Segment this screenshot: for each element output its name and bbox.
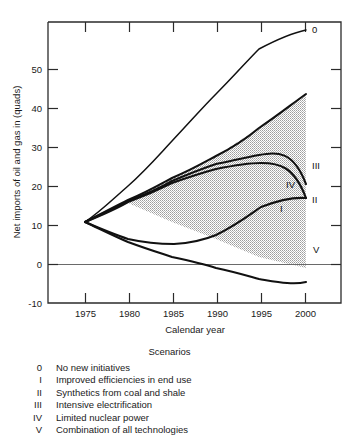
legend-key-I: I: [0, 374, 56, 386]
curve-label-IV: IV: [286, 179, 296, 190]
legend-title: Scenarios: [0, 346, 359, 357]
y-axis-ticks-left: [48, 70, 58, 265]
y-tick-label-20: 20: [31, 181, 42, 192]
curve-label-II: II: [312, 194, 317, 205]
legend-key-II: II: [0, 387, 56, 399]
curve-label-0: 0: [312, 24, 317, 35]
curve-label-V: V: [313, 244, 320, 255]
x-tick-label-1975: 1975: [75, 308, 96, 319]
y-tick-label-10: 10: [31, 220, 42, 231]
legend-key-V: V: [0, 424, 56, 436]
legend-desc-IV: Limited nuclear power: [56, 412, 359, 424]
legend-list: 0 No new initiatives I Improved efficien…: [0, 362, 359, 436]
x-axis-ticks-bottom: [86, 293, 306, 303]
x-tick-label-1980: 1980: [119, 308, 140, 319]
x-axis-ticks-top: [86, 22, 306, 32]
legend-desc-0: No new initiatives: [56, 362, 359, 374]
curve-label-I: I: [280, 203, 283, 214]
x-tick-label-2000: 2000: [295, 308, 316, 319]
legend-item-I: I Improved efficiencies in end use: [0, 374, 359, 386]
figure: 50 40 30 20 10 0 -10 1975 1980 1985 1990…: [0, 0, 359, 444]
x-axis-title: Calendar year: [165, 324, 225, 335]
legend-item-V: V Combination of all technologies: [0, 424, 359, 436]
legend-desc-V: Combination of all technologies: [56, 424, 359, 436]
x-tick-label-1995: 1995: [251, 308, 272, 319]
y-tick-label-40: 40: [31, 103, 42, 114]
legend-item-0: 0 No new initiatives: [0, 362, 359, 374]
scenario-legend: Scenarios 0 No new initiatives I Improve…: [0, 340, 359, 444]
legend-key-IV: IV: [0, 412, 56, 424]
legend-desc-III: Intensive electrification: [56, 399, 359, 411]
legend-item-III: III Intensive electrification: [0, 399, 359, 411]
legend-key-0: 0: [0, 362, 56, 374]
legend-desc-I: Improved efficiencies in end use: [56, 374, 359, 386]
chart-plot-area: 50 40 30 20 10 0 -10 1975 1980 1985 1990…: [0, 0, 359, 340]
legend-key-III: III: [0, 399, 56, 411]
y-tick-label-30: 30: [31, 142, 42, 153]
chart-svg: 50 40 30 20 10 0 -10 1975 1980 1985 1990…: [0, 0, 359, 340]
x-tick-label-1985: 1985: [163, 308, 184, 319]
y-tick-label-0: 0: [37, 259, 42, 270]
legend-item-IV: IV Limited nuclear power: [0, 412, 359, 424]
y-tick-label-neg10: -10: [28, 298, 42, 309]
legend-item-II: II Synthetics from coal and shale: [0, 387, 359, 399]
x-tick-label-1990: 1990: [207, 308, 228, 319]
legend-desc-II: Synthetics from coal and shale: [56, 387, 359, 399]
y-axis-title: Net imports of oil and gas in (quads): [11, 86, 22, 239]
curve-label-III: III: [312, 160, 320, 171]
y-tick-label-50: 50: [31, 64, 42, 75]
y-axis-ticks-right: [331, 70, 341, 265]
